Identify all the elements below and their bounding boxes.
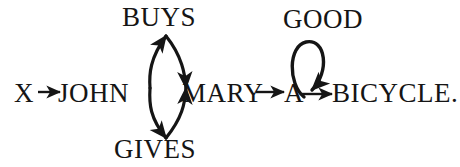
node-label-gives: GIVES [114,136,196,163]
node-label-x: X [14,80,34,107]
diagram-canvas: X JOHN MARY A BICYCLE. BUYS GIVES GOOD [0,0,460,167]
edge-john-gives [150,88,166,138]
node-label-good: GOOD [283,6,363,33]
node-label-bicycle: BICYCLE. [332,80,458,107]
node-label-a: A [284,80,304,107]
node-label-buys: BUYS [122,4,196,31]
edge-john-buys [150,36,166,88]
node-label-mary: MARY [182,80,264,107]
node-label-john: JOHN [58,80,129,107]
